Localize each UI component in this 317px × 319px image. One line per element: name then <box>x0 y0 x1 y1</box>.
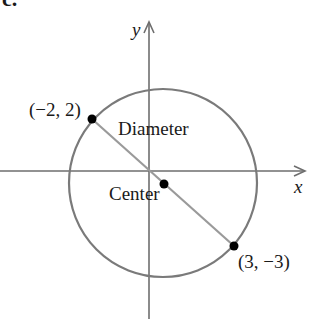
point-endpoint-b <box>230 242 239 251</box>
circle-diagram: c. x y (−2, 2) Diameter Center (3, −3) <box>0 0 317 319</box>
label-center: Center <box>109 183 160 204</box>
label-diameter: Diameter <box>118 118 189 139</box>
point-center <box>160 180 169 189</box>
label-endpoint-b: (3, −3) <box>238 251 290 273</box>
part-label: c. <box>2 0 17 11</box>
y-axis-label: y <box>130 19 141 40</box>
x-axis-label: x <box>293 176 303 197</box>
point-endpoint-a <box>88 115 97 124</box>
label-endpoint-a: (−2, 2) <box>29 99 81 121</box>
